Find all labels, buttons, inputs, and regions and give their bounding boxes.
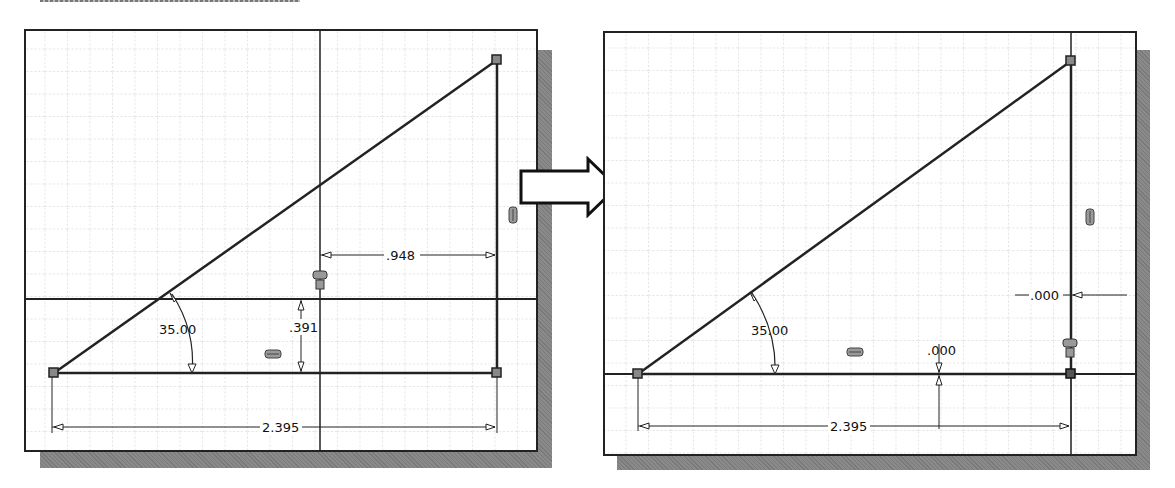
vertex-point[interactable]: [492, 55, 501, 64]
left-sketch-panel[interactable]: 35.00 .948 .391 2.395: [24, 29, 538, 452]
base-length-dimension-label[interactable]: 2.395: [262, 420, 299, 435]
right-sketch-panel[interactable]: 35.00 .000 .000 2.395: [603, 31, 1137, 456]
grid: [26, 31, 536, 450]
vertical-offset-dimension-label[interactable]: .000: [927, 343, 956, 358]
top-rule: [40, 0, 300, 2]
angle-dimension-label[interactable]: 35.00: [751, 323, 788, 338]
base-length-dimension-label[interactable]: 2.395: [830, 419, 867, 434]
vertex-point[interactable]: [1066, 369, 1075, 378]
vertex-point[interactable]: [633, 369, 642, 378]
vertex-point[interactable]: [49, 368, 58, 377]
vertex-point[interactable]: [1066, 56, 1075, 65]
horizontal-offset-dimension-label[interactable]: .948: [386, 248, 415, 263]
grid: [605, 33, 1135, 454]
horizontal-icon[interactable]: [847, 348, 863, 356]
right-sketch-canvas[interactable]: 35.00 .000 .000 2.395: [605, 33, 1135, 454]
vertical-icon[interactable]: [509, 207, 517, 223]
angle-dimension-label[interactable]: 35.00: [159, 322, 196, 337]
horizontal-offset-dimension-label[interactable]: .000: [1030, 288, 1059, 303]
vertical-offset-dimension-label[interactable]: .391: [289, 320, 318, 335]
horizontal-icon[interactable]: [265, 350, 281, 358]
vertex-point[interactable]: [492, 368, 501, 377]
left-sketch-canvas[interactable]: 35.00 .948 .391 2.395: [26, 31, 536, 450]
vertical-icon[interactable]: [1086, 209, 1094, 225]
